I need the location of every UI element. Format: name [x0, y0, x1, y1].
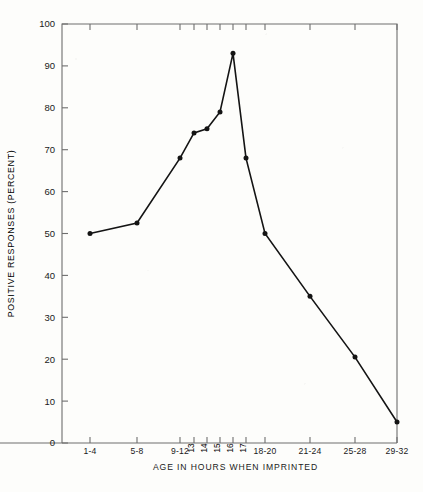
data-line-series	[90, 53, 397, 422]
data-point	[88, 231, 93, 236]
x-tick-label: 21-24	[299, 446, 322, 456]
x-tick-label: 15	[213, 443, 222, 453]
x-tick-label: 13	[187, 443, 196, 453]
line-chart: 0102030405060708090100 1-45-89-121314151…	[0, 0, 423, 492]
figure-container: 0102030405060708090100 1-45-89-121314151…	[0, 0, 423, 492]
x-axis-title: AGE IN HOURS WHEN IMPRINTED	[153, 462, 318, 472]
x-tick-label: 5-8	[130, 446, 143, 456]
data-point	[263, 231, 268, 236]
y-tick-label: 80	[44, 102, 55, 113]
y-tick-label: 20	[44, 354, 55, 365]
y-axis-ticks	[62, 24, 68, 443]
data-point	[395, 420, 400, 425]
y-tick-label: 10	[44, 396, 55, 407]
y-tick-label: 50	[44, 228, 55, 239]
y-tick-label: 40	[44, 270, 55, 281]
data-point	[205, 126, 210, 131]
x-axis-ticks	[90, 24, 397, 443]
x-tick-label: 17	[239, 443, 248, 453]
data-point	[218, 109, 223, 114]
data-point	[135, 221, 140, 226]
data-point	[178, 156, 183, 161]
y-tick-label: 90	[44, 60, 55, 71]
x-tick-label: 1-4	[83, 446, 96, 456]
x-tick-label: 29-32	[386, 446, 409, 456]
y-axis-title: POSITIVE RESPONSES (PERCENT)	[6, 150, 16, 318]
data-point	[192, 130, 197, 135]
y-tick-label: 70	[44, 144, 55, 155]
data-point	[353, 355, 358, 360]
x-axis-tick-labels: 1-45-89-12131415161718-2021-2425-2829-32	[83, 443, 408, 456]
y-tick-label: 100	[39, 18, 55, 29]
data-point	[308, 294, 313, 299]
y-axis-tick-labels: 0102030405060708090100	[39, 18, 55, 448]
chart-frame	[0, 24, 397, 443]
data-point	[231, 51, 236, 56]
y-tick-label: 60	[44, 186, 55, 197]
data-point-markers	[88, 51, 400, 425]
x-tick-label: 14	[200, 443, 209, 453]
x-tick-label: 16	[226, 443, 235, 453]
y-tick-label: 0	[50, 437, 55, 448]
data-point	[244, 156, 249, 161]
y-tick-label: 30	[44, 312, 55, 323]
x-tick-label: 18-20	[254, 446, 277, 456]
x-tick-label: 25-28	[344, 446, 367, 456]
